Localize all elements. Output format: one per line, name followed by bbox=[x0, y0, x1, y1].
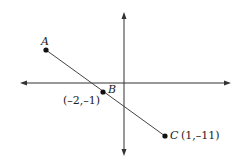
point-b bbox=[100, 89, 105, 94]
diagram-canvas: A B (–2,–1) C (1,–11) bbox=[0, 0, 239, 163]
x-axis-left-arrow-icon bbox=[20, 81, 27, 86]
x-axis-right-arrow-icon bbox=[224, 81, 231, 86]
point-c-label: C bbox=[170, 130, 178, 141]
point-b-coords: (–2,–1) bbox=[63, 95, 100, 106]
point-b-label: B bbox=[108, 84, 116, 95]
point-c bbox=[162, 133, 167, 138]
point-a-label: A bbox=[41, 36, 49, 47]
y-axis-down-arrow-icon bbox=[122, 149, 127, 156]
y-axis-up-arrow-icon bbox=[122, 12, 127, 19]
point-c-coords: (1,–11) bbox=[181, 130, 220, 141]
x-axis bbox=[20, 81, 231, 86]
y-axis bbox=[122, 12, 127, 156]
line-segment-ac bbox=[46, 50, 165, 136]
point-a bbox=[43, 47, 48, 52]
